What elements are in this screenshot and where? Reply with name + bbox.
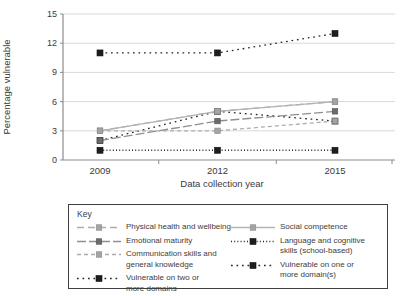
legend-label-line: skills (school-based) (280, 246, 365, 257)
legend-label-line: Vulnerable on one or (280, 260, 354, 271)
data-point (215, 147, 221, 153)
legend-box: Key Physical health and wellbeingEmotion… (68, 204, 388, 289)
x-tick-label: 2009 (89, 165, 110, 176)
x-axis-title: Data collection year (180, 178, 263, 189)
legend-item: Communication skills andgeneral knowledg… (77, 249, 227, 270)
legend-marker-sample (250, 262, 256, 268)
legend-label: Social competence (280, 222, 348, 233)
y-axis-title: Percentage vulnerable (1, 39, 12, 134)
legend-marker-sample (96, 276, 102, 282)
legend-label: Communication skills andgeneral knowledg… (126, 249, 217, 270)
data-point (332, 118, 338, 124)
legend-item: Social competence (231, 222, 383, 233)
legend-label: Physical health and wellbeing (126, 222, 231, 233)
legend-item: Physical health and wellbeing (77, 222, 227, 233)
chart-svg: 03691215200920122015 Percentage vulnerab… (0, 0, 404, 200)
legend-marker-sample (96, 252, 102, 258)
chart-figure: 03691215200920122015 Percentage vulnerab… (0, 0, 404, 296)
legend-label: Language and cognitiveskills (school-bas… (280, 236, 365, 257)
legend-label-line: Vulnerable on two or (126, 273, 199, 284)
legend-marker-sample (250, 225, 256, 231)
y-tick-label: 12 (47, 38, 57, 48)
data-point (332, 30, 338, 36)
legend-swatch-icon (231, 237, 275, 246)
legend-label-line: more domains (126, 284, 199, 295)
y-tick-label: 3 (52, 126, 57, 136)
legend-swatch-icon (77, 274, 121, 283)
legend-marker-sample (96, 238, 102, 244)
legend-marker-sample (96, 225, 102, 231)
legend-title: Key (77, 209, 92, 219)
series-line-1 (100, 111, 335, 140)
data-point (97, 50, 103, 56)
legend-label-line: more domain(s) (280, 270, 354, 281)
legend-marker-sample (250, 238, 256, 244)
data-point (215, 109, 221, 115)
legend-item: Vulnerable on two ormore domains (77, 273, 227, 294)
legend-column-1: Physical health and wellbeingEmotional m… (77, 222, 227, 296)
x-tick-label: 2015 (324, 165, 345, 176)
legend-item: Vulnerable on one ormore domain(s) (231, 260, 383, 281)
y-tick-label: 6 (52, 97, 57, 107)
legend-swatch-icon (77, 223, 121, 232)
data-point (332, 99, 338, 105)
legend-label-line: general knowledge (126, 260, 217, 271)
legend-swatch-icon (231, 261, 275, 270)
data-point (97, 128, 103, 134)
legend-label-line: Language and cognitive (280, 236, 365, 247)
series-line-3 (100, 111, 335, 140)
legend-label-line: Communication skills and (126, 249, 217, 260)
x-tick-label: 2012 (207, 165, 228, 176)
legend-label: Vulnerable on one ormore domain(s) (280, 260, 354, 281)
y-tick-label: 15 (47, 9, 57, 19)
data-point (215, 50, 221, 56)
legend-label-line: Physical health and wellbeing (126, 222, 231, 233)
legend-label: Emotional maturity (126, 236, 192, 247)
series-line-4 (100, 102, 335, 131)
y-tick-label: 9 (52, 67, 57, 77)
data-point (215, 128, 221, 134)
legend-item: Language and cognitiveskills (school-bas… (231, 236, 383, 257)
data-point (332, 109, 338, 115)
legend-label: Vulnerable on two ormore domains (126, 273, 199, 294)
series-line-0 (100, 102, 335, 131)
data-point (215, 118, 221, 124)
legend-swatch-icon (77, 250, 121, 259)
data-point (97, 147, 103, 153)
legend-swatch-icon (77, 237, 121, 246)
legend-label-line: Emotional maturity (126, 236, 192, 247)
data-point (332, 147, 338, 153)
legend-label-line: Social competence (280, 222, 348, 233)
data-point (97, 138, 103, 144)
legend-item: Emotional maturity (77, 236, 227, 247)
y-tick-label: 0 (52, 155, 57, 165)
chart-plot-group: 03691215200920122015 (47, 9, 395, 176)
legend-column-2: Social competenceLanguage and cognitives… (231, 222, 383, 284)
legend-swatch-icon (231, 223, 275, 232)
